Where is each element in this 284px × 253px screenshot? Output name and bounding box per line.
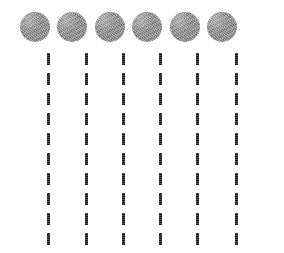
dashed-line-1 — [47, 53, 50, 253]
dash-segment — [85, 193, 88, 205]
dash-segment — [47, 53, 50, 65]
dot-6 — [207, 12, 237, 42]
dash-segment — [159, 133, 162, 145]
dash-segment — [235, 153, 238, 165]
dash-segment — [47, 133, 50, 145]
dash-segment — [235, 213, 238, 225]
dash-segment — [85, 233, 88, 245]
dash-segment — [122, 173, 125, 185]
dot-2 — [57, 12, 87, 42]
dash-segment — [159, 73, 162, 85]
dash-segment — [196, 173, 199, 185]
dash-segment — [159, 53, 162, 65]
dash-segment — [235, 53, 238, 65]
dash-segment — [47, 113, 50, 125]
dashed-line-2 — [85, 53, 88, 253]
dash-segment — [47, 233, 50, 245]
dash-segment — [85, 53, 88, 65]
dot-3 — [95, 12, 125, 42]
dash-segment — [196, 213, 199, 225]
dash-segment — [159, 213, 162, 225]
dash-segment — [85, 173, 88, 185]
dash-segment — [159, 193, 162, 205]
dash-segment — [235, 93, 238, 105]
dash-segment — [196, 93, 199, 105]
dash-segment — [85, 113, 88, 125]
dash-segment — [122, 73, 125, 85]
dash-segment — [235, 173, 238, 185]
dash-segment — [196, 193, 199, 205]
dashed-line-6 — [235, 53, 238, 253]
dash-segment — [196, 133, 199, 145]
dashed-line-5 — [196, 53, 199, 253]
dash-segment — [122, 53, 125, 65]
dash-segment — [159, 233, 162, 245]
dash-segment — [159, 173, 162, 185]
dash-segment — [159, 153, 162, 165]
dash-segment — [235, 113, 238, 125]
dash-segment — [47, 93, 50, 105]
dash-segment — [85, 73, 88, 85]
dash-segment — [196, 53, 199, 65]
dash-segment — [196, 153, 199, 165]
dash-segment — [235, 73, 238, 85]
dash-segment — [159, 113, 162, 125]
dash-segment — [122, 213, 125, 225]
dash-segment — [235, 193, 238, 205]
dash-segment — [235, 133, 238, 145]
dash-segment — [47, 153, 50, 165]
dashed-line-4 — [159, 53, 162, 253]
dash-segment — [47, 73, 50, 85]
dash-segment — [122, 193, 125, 205]
dash-segment — [122, 233, 125, 245]
dash-segment — [47, 213, 50, 225]
dash-segment — [196, 113, 199, 125]
dash-segment — [122, 93, 125, 105]
figure-canvas — [0, 0, 284, 253]
dash-segment — [85, 153, 88, 165]
dash-segment — [85, 93, 88, 105]
dot-5 — [170, 12, 200, 42]
dot-row — [0, 0, 284, 52]
dash-segment — [122, 133, 125, 145]
dash-segment — [122, 113, 125, 125]
dot-1 — [20, 12, 50, 42]
dash-segment — [196, 73, 199, 85]
dash-segment — [47, 173, 50, 185]
dash-segment — [122, 153, 125, 165]
dash-segment — [47, 193, 50, 205]
dot-4 — [132, 12, 162, 42]
dash-segment — [159, 93, 162, 105]
dash-segment — [196, 233, 199, 245]
dash-segment — [85, 213, 88, 225]
dash-segment — [235, 233, 238, 245]
dash-segment — [85, 133, 88, 145]
dashed-line-3 — [122, 53, 125, 253]
